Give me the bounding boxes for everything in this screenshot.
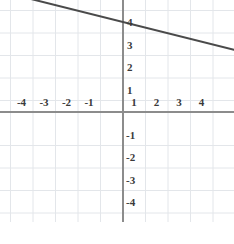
y-tick-label: -3 xyxy=(126,174,135,185)
y-tick-label: -1 xyxy=(126,129,135,140)
x-tick-label: -3 xyxy=(39,97,48,108)
x-tick-label: 2 xyxy=(154,97,160,108)
y-tick-label: 4 xyxy=(127,17,133,28)
x-tick-label: -4 xyxy=(17,97,26,108)
x-tick-label: 4 xyxy=(199,97,205,108)
y-tick-label: -4 xyxy=(126,197,135,208)
y-tick-label: 1 xyxy=(127,84,133,95)
y-tick-label: -2 xyxy=(126,152,135,163)
graph-canvas xyxy=(0,0,234,244)
x-tick-label: -1 xyxy=(84,97,93,108)
x-tick-label: 3 xyxy=(176,97,182,108)
x-tick-label: -2 xyxy=(62,97,71,108)
y-tick-label: 3 xyxy=(127,39,133,50)
coordinate-plane-graph: -4 -3 -2 -1 1 2 3 4 4 3 2 1 -1 -2 -3 -4 xyxy=(0,0,234,244)
y-tick-label: 2 xyxy=(127,62,133,73)
x-tick-label: 1 xyxy=(131,97,137,108)
plot-background xyxy=(0,0,234,244)
